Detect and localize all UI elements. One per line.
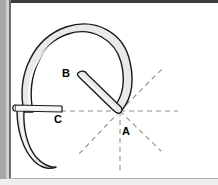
label-a: A bbox=[122, 125, 130, 137]
figure-container: B C A bbox=[0, 0, 218, 185]
label-b: B bbox=[62, 67, 70, 79]
hook-diagram: B C A bbox=[0, 0, 218, 185]
page-border-left bbox=[9, 0, 11, 179]
cross-bar-left-cap bbox=[13, 105, 15, 111]
page-border-top bbox=[9, 0, 218, 3]
page-bottom-rule bbox=[9, 178, 218, 179]
cross-bar bbox=[13, 105, 62, 112]
page-left-edge-shade bbox=[0, 0, 6, 185]
label-c: C bbox=[54, 113, 62, 125]
page-left-edge-shade-inner bbox=[6, 0, 9, 185]
page-bottom-band bbox=[0, 179, 218, 185]
